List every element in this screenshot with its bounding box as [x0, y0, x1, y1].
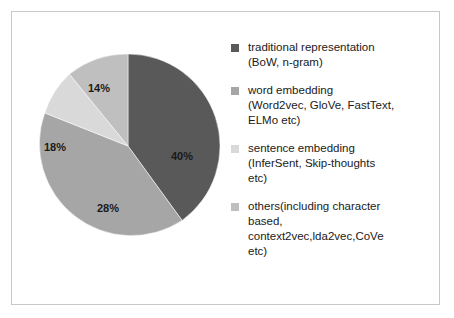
- pie-slice-value-sentence-embedding: 18%: [44, 141, 66, 153]
- pie-slice-value-word-embedding: 28%: [97, 202, 119, 214]
- pie-chart-svg: 40% 28% 18% 14%: [26, 52, 222, 252]
- legend-item-word-embedding[interactable]: word embedding (Word2vec, GloVe, FastTex…: [231, 83, 436, 128]
- chart-frame: 40% 28% 18% 14% traditional representati…: [11, 11, 440, 305]
- pie-slice-value-traditional-representation: 40%: [171, 150, 193, 162]
- legend-swatch-icon: [231, 44, 239, 52]
- legend-item-label: others(including character based, contex…: [248, 199, 384, 259]
- legend-item-label: sentence embedding (InferSent, Skip-thou…: [248, 141, 375, 186]
- pie-chart: 40% 28% 18% 14%: [26, 52, 222, 252]
- legend-swatch-icon: [231, 87, 239, 95]
- legend-item-others[interactable]: others(including character based, contex…: [231, 199, 436, 259]
- legend-item-label: word embedding (Word2vec, GloVe, FastTex…: [248, 83, 394, 128]
- legend-item-traditional-representation[interactable]: traditional representation (BoW, n-gram): [231, 40, 436, 70]
- legend-swatch-icon: [231, 203, 239, 211]
- legend-item-sentence-embedding[interactable]: sentence embedding (InferSent, Skip-thou…: [231, 141, 436, 186]
- legend-swatch-icon: [231, 145, 239, 153]
- pie-slice-value-others: 14%: [88, 82, 110, 94]
- chart-legend: traditional representation (BoW, n-gram)…: [231, 40, 436, 272]
- legend-item-label: traditional representation (BoW, n-gram): [248, 40, 375, 70]
